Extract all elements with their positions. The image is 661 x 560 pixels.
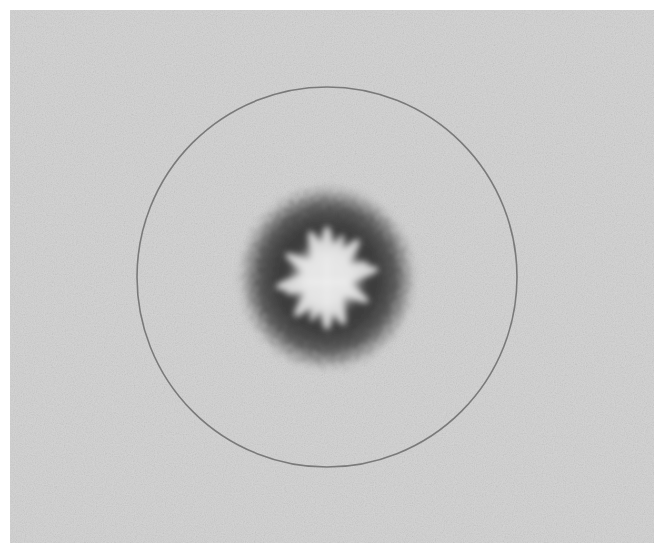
micrograph-svg (10, 10, 654, 543)
micrograph-photo (10, 10, 654, 543)
